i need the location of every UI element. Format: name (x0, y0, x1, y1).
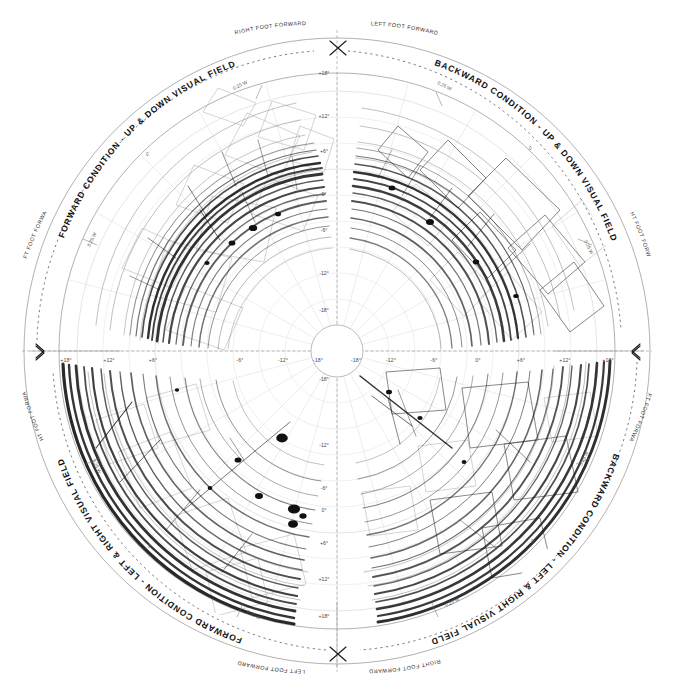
tick-h-right-2: -6° (430, 357, 437, 363)
tick-h-left-5: -18° (313, 357, 323, 363)
tick-v-bottom-2: -6° (321, 485, 328, 491)
tick-v-bottom-1: -12° (319, 442, 329, 448)
tick-h-left-1: +12° (103, 357, 115, 363)
polar-plot-svg: FORWARD CONDITION - UP & DOWN VISUAL FIE… (0, 0, 674, 695)
tick-v-top-3: 0° (322, 191, 327, 197)
radial-zero-lower-left: 0 (148, 544, 151, 549)
tick-v-bottom-0: -18° (319, 376, 329, 382)
tick-h-right-1: -12° (386, 357, 396, 363)
tick-v-bottom-3: 0° (322, 507, 327, 513)
tick-v-top-5: -12° (319, 270, 329, 276)
radial-zero-lower-right: 0 (531, 539, 534, 544)
radial-chart-figure: FORWARD CONDITION - UP & DOWN VISUAL FIE… (0, 0, 674, 695)
tick-v-top-0: +18° (319, 70, 330, 76)
tick-v-bottom-5: +12° (319, 576, 330, 582)
tick-h-left-2: +6° (149, 357, 158, 363)
tick-h-right-5: +12° (559, 357, 571, 363)
tick-h-left-4: -12° (278, 357, 288, 363)
tick-h-right-4: +6° (517, 357, 526, 363)
tick-h-right-6: +18° (602, 357, 614, 363)
tick-h-right-0: -18° (351, 357, 361, 363)
radial-zero-upper-left: 0 (146, 152, 149, 157)
tick-v-bottom-6: +18° (319, 613, 330, 619)
tick-v-top-6: -18° (319, 307, 329, 313)
center-hub (311, 325, 363, 377)
tick-v-bottom-4: +6° (320, 540, 328, 546)
tick-h-left-0: +18° (60, 357, 72, 363)
tick-h-left-3: -6° (236, 357, 243, 363)
tick-v-top-1: +12° (319, 113, 330, 119)
radial-zero-upper-right: 0 (529, 146, 532, 151)
tick-h-right-3: 0° (475, 357, 480, 363)
tick-v-top-4: -6° (321, 227, 328, 233)
tick-v-top-2: +6° (320, 148, 328, 154)
